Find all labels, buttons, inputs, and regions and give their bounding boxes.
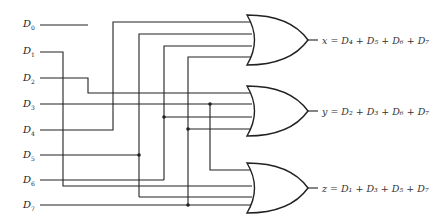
output-z-equation: z = D₁ + D₃ + D₅ + D₇ (322, 184, 429, 194)
output-y-equation: y = D₂ + D₃ + D₆ + D₇ (322, 107, 429, 117)
or-gate-x (247, 15, 308, 65)
or-gate-z (247, 163, 308, 213)
output-x-equation: x = D₄ + D₅ + D₆ + D₇ (322, 36, 429, 46)
or-gate-y (247, 86, 308, 136)
encoder-diagram: D0 D1 D2 D3 D4 D5 D6 D7 (0, 0, 448, 221)
